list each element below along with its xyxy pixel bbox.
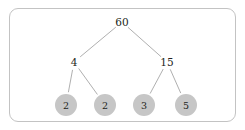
- node-label-l1a: 4: [71, 56, 78, 68]
- tree-edge-l1a-l2b: [79, 68, 98, 94]
- tree-node-l2b: 2: [94, 94, 116, 116]
- tree-edge-l1b-l2c: [150, 69, 163, 93]
- tree-edge-root-l1a: [80, 27, 116, 57]
- node-label-l2c: 3: [141, 100, 147, 111]
- factor-tree-figure: 604152235: [0, 0, 245, 130]
- node-label-root: 60: [115, 16, 128, 28]
- tree-canvas: 604152235: [0, 0, 245, 130]
- node-label-l2d: 5: [183, 100, 189, 111]
- tree-node-l2d: 5: [175, 94, 197, 116]
- tree-edge-l1b-l2d: [170, 69, 181, 93]
- tree-node-l2c: 3: [133, 94, 155, 116]
- tree-node-root: 60: [115, 16, 128, 28]
- node-layer: 604152235: [55, 16, 197, 116]
- tree-edge-l1a-l2a: [68, 70, 72, 92]
- node-label-l2b: 2: [102, 100, 108, 111]
- tree-node-l1a: 4: [71, 56, 78, 68]
- tree-node-l2a: 2: [55, 94, 77, 116]
- node-label-l1b: 15: [160, 56, 173, 68]
- tree-edge-root-l1b: [128, 27, 161, 56]
- tree-node-l1b: 15: [160, 56, 173, 68]
- node-label-l2a: 2: [63, 100, 69, 111]
